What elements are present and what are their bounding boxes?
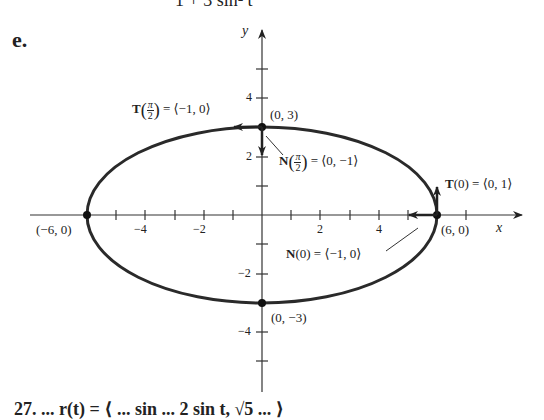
y-tick-label: −2 [238, 266, 251, 281]
y-tick-label: −4 [238, 324, 251, 339]
x-axis-label: x [496, 220, 502, 236]
x-tick-label: −4 [134, 222, 147, 237]
label-n-0: N(0) = ⟨−1, 0⟩ [286, 246, 361, 262]
point-left [83, 211, 91, 219]
point-label-right: (6, 0) [441, 222, 469, 238]
leader-n-0 [386, 228, 418, 251]
point-label-left: (−6, 0) [36, 222, 72, 238]
x-tick-label: −2 [193, 222, 206, 237]
point-label-bottom: (0, −3) [271, 310, 307, 326]
x-tick-label: 4 [376, 222, 382, 237]
x-tick-label: 2 [317, 222, 323, 237]
y-axis-label: y [242, 23, 248, 39]
label-t-0: T(0) = ⟨0, 1⟩ [445, 176, 512, 192]
point-bottom [258, 299, 266, 307]
y-tick-label: 2 [246, 149, 252, 164]
n-symbol: N [279, 153, 288, 168]
y-tick-label: 4 [246, 90, 252, 105]
label-t-pi2: T(π2) = ⟨−1, 0⟩ [132, 100, 211, 121]
t-symbol: T [132, 101, 141, 116]
label-n-pi2: N(π2) = ⟨0, −1⟩ [279, 152, 358, 173]
next-problem-fragment: 27. ... r(t) = ⟨ ... sin ... 2 sin t, √5… [14, 398, 284, 420]
point-label-top: (0, 3) [270, 107, 298, 123]
